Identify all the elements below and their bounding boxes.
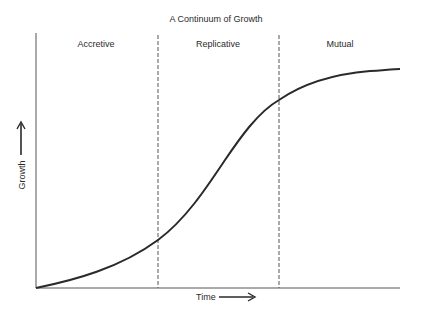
chart-title: A Continuum of Growth [169, 14, 262, 24]
arrow-up-icon [17, 122, 25, 155]
growth-curve [36, 69, 400, 288]
phase-label-mutual: Mutual [326, 39, 353, 49]
phase-label-replicative: Replicative [196, 39, 240, 49]
x-axis-label: Time [196, 292, 216, 302]
arrow-right-icon [219, 293, 255, 301]
y-axis-label: Growth [17, 160, 27, 189]
growth-continuum-diagram: A Continuum of Growth Accretive Replicat… [0, 0, 423, 313]
phase-label-accretive: Accretive [77, 39, 114, 49]
